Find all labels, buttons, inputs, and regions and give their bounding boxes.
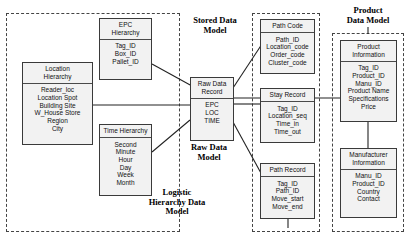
entity-manufacturer-information[interactable]: Manufacturer Information Manu_ID Product… — [340, 148, 397, 218]
entity-fields: Second Minute Hour Day Week Month — [100, 138, 151, 189]
entity-fields: Tag_ID Product_ID Manu_ID Product Name S… — [341, 62, 396, 113]
entity-field: Pallet_ID — [101, 58, 150, 66]
entity-field: W_House Store — [24, 109, 91, 117]
entity-epc-hierarchy[interactable]: EPC Hierarchy Tag_ID Box_ID Pallet_ID — [99, 18, 152, 80]
entity-fields: Tag_ID Path_ID Move_start Move_end — [261, 177, 314, 213]
entity-header-line: Raw Data — [192, 80, 232, 88]
entity-fields: Manu_ID Product_ID Country Contact — [341, 170, 396, 206]
entity-field: Day — [101, 164, 150, 172]
entity-field: Manu_ID — [342, 172, 395, 180]
entity-field: Month — [101, 179, 150, 187]
entity-path-record[interactable]: Path Record Tag_ID Path_ID Move_start Mo… — [260, 163, 315, 219]
entity-stay-record[interactable]: Stay Record Tag_ID Location_seq Time_in … — [260, 88, 315, 143]
entity-field: Location Spot — [24, 94, 91, 102]
entity-header-line: Time Hierarchy — [101, 127, 150, 135]
entity-raw-data-record[interactable]: Raw Data Record EPC LOC TIME — [190, 77, 234, 141]
link-epc-to-raw — [152, 64, 192, 86]
entity-field: Box_ID — [101, 50, 150, 58]
entity-header: Path Record — [261, 164, 314, 177]
link-raw-to-path-code — [233, 44, 262, 88]
entity-field: Location_code — [262, 43, 313, 51]
entity-field: Price — [342, 103, 395, 111]
entity-field: Move_end — [262, 203, 313, 211]
entity-time-hierarchy[interactable]: Time Hierarchy Second Minute Hour Day We… — [99, 124, 152, 196]
entity-header: Time Hierarchy — [100, 125, 151, 138]
entity-field: Path_ID — [262, 187, 313, 195]
entity-header-line: Path Record — [262, 166, 313, 174]
entity-field: Tag_ID — [101, 42, 150, 50]
entity-field: Move_start — [262, 195, 313, 203]
entity-header: Stay Record — [261, 89, 314, 102]
entity-fields: Tag_ID Location_seq Time_in Time_out — [261, 102, 314, 138]
entity-field: TIME — [192, 117, 232, 125]
entity-field: Path_ID — [262, 36, 313, 44]
entity-field: Tag_ID — [262, 180, 313, 188]
entity-field: Region — [24, 117, 91, 125]
entity-header: Path Code — [261, 20, 314, 33]
entity-field: EPC — [192, 101, 232, 109]
entity-field: Tag_ID — [262, 105, 313, 113]
entity-header-line: Location — [24, 65, 91, 73]
entity-header: Raw Data Record — [191, 78, 233, 99]
entity-header-line: Information — [342, 51, 395, 59]
entity-field: Building Site — [24, 102, 91, 110]
entity-header-line: Path Code — [262, 22, 313, 30]
entity-field: Product_ID — [342, 180, 395, 188]
entity-field: Product Name — [342, 87, 395, 95]
entity-fields: Path_ID Location_code Order_code Cluster… — [261, 33, 314, 69]
entity-location-hierarchy[interactable]: Location Hierarchy Reader_loc Location S… — [22, 62, 93, 145]
entity-header-line: EPC — [101, 21, 150, 29]
entity-field: Tag_ID — [342, 64, 395, 72]
entity-field: LOC — [192, 109, 232, 117]
entity-header-line: Manufacturer — [342, 151, 395, 159]
entity-fields: EPC LOC TIME — [191, 99, 233, 127]
entity-field: Order_code — [262, 51, 313, 59]
entity-fields: Reader_loc Location Spot Building Site W… — [23, 84, 92, 135]
entity-field: Country — [342, 188, 395, 196]
entity-field: Reader_loc — [24, 86, 91, 94]
entity-field: Week — [101, 171, 150, 179]
link-raw-to-path-record — [233, 122, 262, 175]
entity-header: Product Information — [341, 41, 396, 62]
entity-field: Specifications — [342, 95, 395, 103]
link-time-to-raw — [152, 120, 190, 152]
entity-header-line: Hierarchy — [24, 73, 91, 81]
entity-field: Time_in — [262, 120, 313, 128]
entity-header-line: Product — [342, 43, 395, 51]
entity-header: Location Hierarchy — [23, 63, 92, 84]
entity-field: Contact — [342, 195, 395, 203]
entity-field: Time_out — [262, 128, 313, 136]
entity-header-line: Stay Record — [262, 91, 313, 99]
entity-field: Cluster_code — [262, 59, 313, 67]
entity-field: Hour — [101, 156, 150, 164]
entity-product-information[interactable]: Product Information Tag_ID Product_ID Ma… — [340, 40, 397, 122]
entity-header: Manufacturer Information — [341, 149, 396, 170]
entity-field: City — [24, 125, 91, 133]
entity-fields: Tag_ID Box_ID Pallet_ID — [100, 40, 151, 68]
entity-field: Location_seq — [262, 112, 313, 120]
diagram-canvas: Stored Data Model Raw Data Model Logisti… — [0, 0, 408, 238]
entity-field: Second — [101, 141, 150, 149]
entity-header: EPC Hierarchy — [100, 19, 151, 40]
entity-header-line: Record — [192, 88, 232, 96]
entity-header-line: Information — [342, 159, 395, 167]
entity-path-code[interactable]: Path Code Path_ID Location_code Order_co… — [260, 19, 315, 74]
entity-field: Manu_ID — [342, 80, 395, 88]
entity-field: Minute — [101, 148, 150, 156]
entity-field: Product_ID — [342, 72, 395, 80]
entity-header-line: Hierarchy — [101, 29, 150, 37]
